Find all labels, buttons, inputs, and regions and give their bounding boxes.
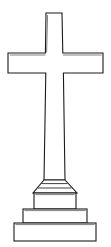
pedestal-tier-middle-step <box>23 209 87 223</box>
cross-monument-figure <box>0 0 111 247</box>
pedestal-tier-bottom-base <box>14 223 96 241</box>
cross-monument-drawing <box>0 0 111 247</box>
pedestal-tier-upper-block <box>34 193 76 209</box>
